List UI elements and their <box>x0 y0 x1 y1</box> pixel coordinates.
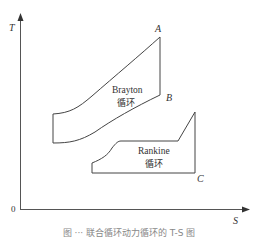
ts-diagram: T S 0 A B C Brayton 循环 Rankine 循环 <box>0 0 258 237</box>
rankine-label: Rankine <box>138 146 170 156</box>
brayton-cycle-cn-label: 循环 <box>117 97 135 108</box>
brayton-cycle-shape <box>53 37 160 143</box>
origin-label: 0 <box>11 204 16 214</box>
rankine-cycle-shape <box>92 112 195 173</box>
y-axis-arrow-icon <box>18 13 24 21</box>
figure-caption: 图 ··· 联合循环动力循环的 T-S 图 <box>0 226 258 237</box>
point-b-label: B <box>166 92 172 103</box>
x-axis-label: S <box>233 215 238 226</box>
point-c-label: C <box>197 173 204 184</box>
point-a-label: A <box>154 23 162 34</box>
y-axis-label: T <box>9 22 16 33</box>
rankine-cycle-cn-label: 循环 <box>145 158 163 169</box>
brayton-label: Brayton <box>112 85 143 95</box>
x-axis-arrow-icon <box>242 207 250 213</box>
